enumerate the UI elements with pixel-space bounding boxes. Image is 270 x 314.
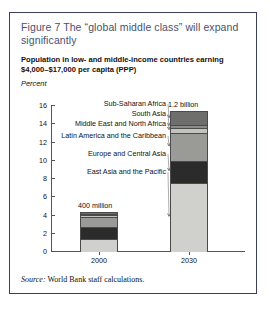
y-axis-tick-mark bbox=[52, 251, 55, 252]
source-text: World Bank staff calculations. bbox=[46, 275, 145, 284]
bar-annotation: 1.2 billion bbox=[168, 100, 198, 109]
y-axis-tick-mark bbox=[52, 233, 55, 234]
y-axis-tick-mark bbox=[52, 196, 55, 197]
figure-subtitle: Population in low- and middle-income cou… bbox=[21, 55, 249, 74]
y-axis-tick-label: 8 bbox=[33, 174, 47, 183]
x-axis-tick-label: 2000 bbox=[79, 256, 119, 265]
y-axis-tick-label: 0 bbox=[33, 247, 47, 256]
x-axis-tick-mark bbox=[189, 252, 190, 255]
y-axis-tick-label: 10 bbox=[33, 155, 47, 164]
y-axis-tick-label: 2 bbox=[33, 228, 47, 237]
bar-annotation: 400 million bbox=[78, 201, 112, 210]
y-axis-tick-label: 6 bbox=[33, 192, 47, 201]
y-axis-tick-label: 12 bbox=[33, 137, 47, 146]
bar-segment bbox=[171, 112, 207, 125]
region-label: Sub-Saharan Africa bbox=[104, 99, 166, 108]
y-axis-tick-mark bbox=[52, 105, 55, 106]
y-axis-tick-mark bbox=[52, 178, 55, 179]
bar-segment bbox=[81, 227, 117, 239]
figure-title: Figure 7 The “global middle class” will … bbox=[21, 21, 245, 47]
y-axis-tick-mark bbox=[52, 160, 55, 161]
source-note: Source: World Bank staff calculations. bbox=[21, 275, 144, 284]
x-axis-tick-label: 2030 bbox=[169, 256, 209, 265]
bar-segment bbox=[171, 183, 207, 252]
y-axis-tick-mark bbox=[52, 142, 55, 143]
y-axis-unit-label: Percent bbox=[21, 79, 46, 88]
region-label: Middle East and North Africa bbox=[75, 119, 166, 128]
bar-segment bbox=[81, 239, 117, 252]
bar-segment bbox=[171, 161, 207, 183]
y-axis-tick-label: 16 bbox=[33, 101, 47, 110]
y-axis-tick-label: 4 bbox=[33, 210, 47, 219]
bar-2000[interactable] bbox=[80, 212, 118, 251]
y-axis-tick-mark bbox=[52, 215, 55, 216]
region-label: Europe and Central Asia bbox=[88, 149, 166, 158]
source-label: Source: bbox=[21, 275, 46, 284]
bar-segment bbox=[171, 133, 207, 160]
y-axis-tick-label: 14 bbox=[33, 119, 47, 128]
bar-2030[interactable] bbox=[170, 111, 208, 251]
x-axis-tick-mark bbox=[99, 252, 100, 255]
chart-plot-area: 02468101214162000400 million20301.2 bill… bbox=[21, 91, 247, 263]
bar-segment bbox=[81, 217, 117, 227]
region-label: South Asia bbox=[132, 109, 166, 118]
figure-card: Figure 7 The “global middle class” will … bbox=[9, 12, 257, 294]
region-label: Latin America and the Caribbean bbox=[61, 131, 166, 140]
region-label: East Asia and the Pacific bbox=[87, 167, 166, 176]
y-axis-tick-mark bbox=[52, 123, 55, 124]
